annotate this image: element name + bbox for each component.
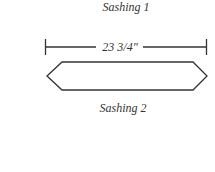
sashing-2-label: Sashing 2 [99, 101, 146, 116]
sashing-diagram [0, 0, 215, 172]
dimension-label: 23 3/4" [102, 40, 137, 55]
sashing-strip-shape [47, 62, 207, 90]
